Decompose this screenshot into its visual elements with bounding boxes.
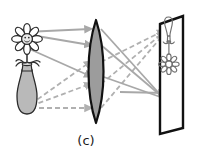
screen-panel [160,16,183,134]
dashed-ray-2-incident [31,84,90,106]
dashed-ray-1-incident [31,62,90,104]
figure-root: (c) [0,0,197,151]
figure-caption: (c) [77,133,94,148]
solid-ray-1-refracted [101,29,166,101]
solid-ray-4-refracted [120,92,164,93]
vase-body [17,70,37,114]
dashed-ray-2-refracted [101,33,163,84]
projection-screen [159,16,183,134]
flower-center [22,34,33,45]
object-flower-in-vase [12,24,43,114]
solid-ray-3-refracted [101,76,166,99]
ray-diagram-canvas: (c) [0,0,197,151]
